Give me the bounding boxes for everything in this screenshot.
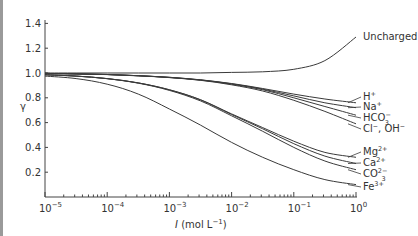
curves — [45, 37, 356, 185]
x-axis-label-close: ) — [223, 219, 227, 230]
y-tick-label: 0.2 — [25, 167, 41, 178]
curve-co32 — [45, 75, 356, 170]
x-tick-exp: −2 — [238, 201, 248, 209]
label-leader — [348, 97, 361, 103]
x-tick-exp: −5 — [52, 201, 62, 209]
x-tick-label: 100 — [350, 201, 367, 214]
label-leader — [348, 163, 361, 164]
x-axis-label-exp: −1 — [212, 218, 222, 226]
label-leader — [348, 152, 361, 157]
curve-hco3 — [45, 73, 356, 115]
y-tick-label: 0.6 — [25, 117, 41, 128]
x-tick-label: 10−2 — [226, 201, 249, 214]
x-ticks: 10−510−410−310−210−1100 — [39, 192, 367, 214]
curve-label-fe3: Fe3+ — [363, 180, 384, 192]
label-leader — [348, 185, 361, 187]
x-axis-label-unit: (mol L — [178, 219, 213, 230]
x-tick-exp: −4 — [114, 201, 125, 209]
x-axis-label: I (mol L−1) — [175, 218, 227, 230]
axes — [45, 20, 357, 197]
curve-fe3 — [45, 76, 356, 185]
curve-ca2 — [45, 75, 356, 164]
x-tick-base: 10 — [163, 203, 176, 214]
curve-uncharged — [45, 37, 356, 73]
x-tick-base: 10 — [39, 203, 52, 214]
curve-label-na: Na+ — [363, 100, 382, 112]
y-tick-label: 0.4 — [25, 142, 41, 153]
x-tick-label: 10−4 — [101, 201, 125, 214]
x-tick-label: 10−3 — [163, 201, 186, 214]
label-leader — [348, 124, 361, 129]
activity-coefficient-chart: 0.20.40.60.81.01.21.4 10−510−410−310−210… — [0, 0, 418, 236]
x-tick-base: 10 — [350, 203, 363, 214]
y-axis-label: γ — [20, 101, 26, 112]
x-tick-label: 10−1 — [288, 201, 311, 214]
curve-label-uncharged: Uncharged — [363, 31, 417, 42]
curve-h — [45, 73, 356, 102]
x-tick-exp: −3 — [176, 201, 186, 209]
curve-mg2 — [45, 75, 356, 158]
label-leader — [348, 115, 361, 118]
x-tick-label: 10−5 — [39, 201, 62, 214]
y-tick-label: 1.2 — [25, 43, 41, 54]
x-tick-base: 10 — [226, 203, 239, 214]
x-tick-base: 10 — [101, 203, 114, 214]
curve-label-cl-oh: Cl⁻, OH⁻ — [363, 123, 405, 134]
y-tick-label: 0.8 — [25, 92, 41, 103]
y-tick-label: 1.0 — [25, 68, 41, 79]
x-tick-exp: 0 — [363, 201, 367, 209]
curve-labels: UnchargedH+Na+HCO−3Cl⁻, OH⁻Mg2+Ca2+CO2−3… — [348, 31, 417, 192]
y-tick-label: 1.4 — [25, 18, 41, 29]
x-tick-exp: −1 — [301, 201, 311, 209]
label-leader — [348, 170, 361, 174]
x-tick-base: 10 — [288, 203, 301, 214]
